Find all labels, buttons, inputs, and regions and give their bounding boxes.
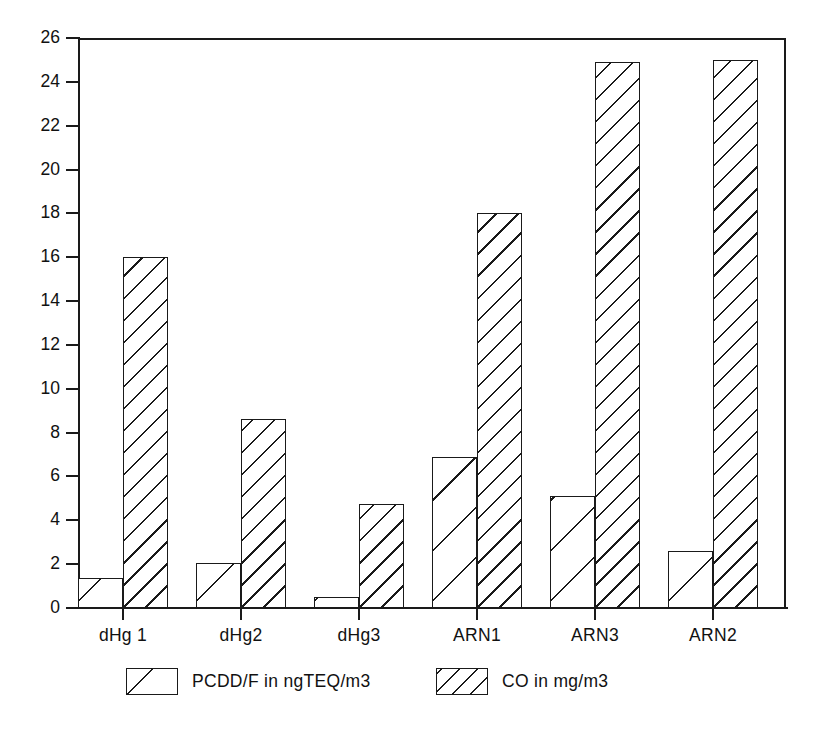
y-axis-tick [66,563,80,565]
x-axis-tick [712,608,714,620]
legend-swatch-0 [126,668,178,695]
bar-pcddf-5 [668,551,713,608]
y-axis-tick-label: 2 [18,555,60,573]
bar-pcddf-1 [196,563,241,608]
bar-co-3 [477,213,522,608]
bar-co-0 [123,257,168,608]
bar-co-4 [595,62,640,608]
y-axis-tick-label: 14 [18,292,60,310]
y-axis-tick [66,37,80,39]
bar-co-5 [713,60,758,608]
x-axis-label-0: dHg 1 [64,626,182,645]
x-axis-tick [240,608,242,620]
y-axis-tick-label: 16 [18,248,60,266]
bar-pcddf-2 [314,597,359,608]
legend-label-1: CO in mg/m3 [502,671,608,692]
y-axis-tick-label: 24 [18,73,60,91]
legend-swatch-1 [436,668,488,695]
bar-pcddf-4 [550,496,595,608]
y-axis-tick [66,388,80,390]
y-axis-tick [66,256,80,258]
y-axis-tick-label: 8 [18,424,60,442]
y-axis-tick-label: 6 [18,467,60,485]
x-axis-label-3: ARN1 [418,626,536,645]
y-axis-tick-label: 10 [18,380,60,398]
y-axis-tick [66,432,80,434]
bar-chart: 02468101214161820222426 dHg 1dHg2dHg3ARN… [0,0,819,734]
chart-legend: PCDD/F in ngTEQ/m3CO in mg/m3 [78,668,778,712]
x-axis-label-2: dHg3 [300,626,418,645]
y-axis-tick-label: 20 [18,161,60,179]
y-axis-tick [66,475,80,477]
x-axis-tick [476,608,478,620]
y-axis-tick [66,125,80,127]
y-axis-tick-label: 22 [18,117,60,135]
x-axis-label-4: ARN3 [536,626,654,645]
bar-co-2 [359,504,404,608]
y-axis-tick-label: 0 [18,599,60,617]
y-axis-tick [66,81,80,83]
y-axis-tick [66,300,80,302]
bar-co-1 [241,419,286,608]
y-axis-tick [66,169,80,171]
y-axis-tick-label: 18 [18,204,60,222]
y-axis-tick [66,344,80,346]
y-axis-tick [66,212,80,214]
y-axis-tick-label: 4 [18,511,60,529]
legend-item-1: CO in mg/m3 [436,668,608,695]
legend-item-0: PCDD/F in ngTEQ/m3 [126,668,371,695]
legend-label-0: PCDD/F in ngTEQ/m3 [192,671,371,692]
bar-pcddf-3 [432,457,477,608]
x-axis-tick [122,608,124,620]
x-axis-label-1: dHg2 [182,626,300,645]
x-axis-tick [358,608,360,620]
y-axis-tick-label: 26 [18,29,60,47]
y-axis-tick-label: 12 [18,336,60,354]
y-axis-tick [66,519,80,521]
x-axis-label-5: ARN2 [654,626,772,645]
bar-pcddf-0 [78,578,123,608]
x-axis-tick [594,608,596,620]
